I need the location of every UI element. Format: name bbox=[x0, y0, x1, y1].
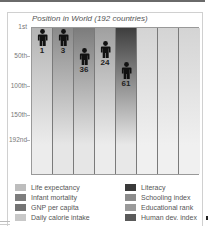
rank-value: 36 bbox=[77, 66, 91, 74]
column-educational-rank bbox=[158, 28, 179, 174]
person-icon bbox=[121, 62, 132, 79]
legend-swatch bbox=[125, 204, 136, 211]
legend-label: GNP per capita bbox=[31, 204, 79, 211]
legend-swatch bbox=[15, 184, 26, 191]
column-literacy bbox=[116, 28, 137, 174]
rank-value: 1 bbox=[35, 47, 49, 55]
legend-item: Infant mortality bbox=[15, 193, 77, 202]
legend-swatch bbox=[125, 214, 136, 221]
y-tick-label: 150th bbox=[0, 111, 27, 118]
rank-marker: 36 bbox=[77, 48, 91, 74]
person-icon bbox=[100, 41, 111, 58]
column-human-dev-index bbox=[179, 28, 200, 174]
legend-item: Human dev. index bbox=[125, 213, 197, 222]
legend-label: Daily calorie intake bbox=[31, 214, 90, 221]
legend-label: Educational rank bbox=[141, 204, 193, 211]
legend-swatch bbox=[15, 194, 26, 201]
y-tick-label: 50th bbox=[0, 52, 27, 59]
person-icon bbox=[58, 29, 69, 46]
person-icon bbox=[37, 29, 48, 46]
legend-label: Schooling index bbox=[141, 194, 190, 201]
rank-value: 61 bbox=[119, 80, 133, 88]
rank-marker: 24 bbox=[98, 41, 112, 67]
y-tick-label: 100th bbox=[0, 82, 27, 89]
legend-label: Life expectancy bbox=[31, 184, 80, 191]
plot-area: 13362461 bbox=[31, 27, 199, 175]
column-schooling-index bbox=[137, 28, 158, 174]
rank-marker: 1 bbox=[35, 29, 49, 55]
legend-label: Literacy bbox=[141, 184, 166, 191]
legend-label: Infant mortality bbox=[31, 194, 77, 201]
chart-title: Position in World (192 countries) bbox=[32, 14, 148, 23]
legend-item: Literacy bbox=[125, 183, 166, 192]
rank-marker: 61 bbox=[119, 62, 133, 88]
decorative-line bbox=[0, 221, 10, 222]
legend-item: GNP per capita bbox=[15, 203, 79, 212]
legend-swatch bbox=[15, 204, 26, 211]
legend-item: Life expectancy bbox=[15, 183, 80, 192]
decorative-mark bbox=[206, 216, 208, 220]
y-tick-label: 192nd bbox=[0, 136, 27, 143]
legend-swatch bbox=[125, 184, 136, 191]
legend-swatch bbox=[15, 214, 26, 221]
rank-marker: 3 bbox=[56, 29, 70, 55]
legend-label: Human dev. index bbox=[141, 214, 197, 221]
decorative-line bbox=[0, 224, 10, 225]
rank-value: 3 bbox=[56, 47, 70, 55]
legend-item: Daily calorie intake bbox=[15, 213, 90, 222]
top-divider bbox=[0, 0, 205, 2]
rank-value: 24 bbox=[98, 59, 112, 67]
person-icon bbox=[79, 48, 90, 65]
legend-item: Schooling index bbox=[125, 193, 190, 202]
legend-item: Educational rank bbox=[125, 203, 193, 212]
y-tick-label: 1st bbox=[0, 23, 27, 30]
legend-swatch bbox=[125, 194, 136, 201]
